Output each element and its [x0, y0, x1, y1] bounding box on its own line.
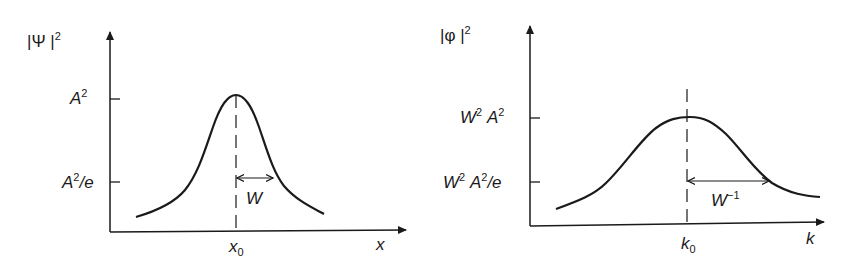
left-x-axis [110, 230, 406, 232]
left-width-label: W [246, 190, 262, 207]
diagram-canvas [0, 0, 844, 274]
left-e-tick-label: A2/e [62, 172, 94, 191]
right-x-axis [530, 222, 824, 226]
right-panel [530, 26, 824, 226]
left-y-axis-label: |Ψ |2 [27, 31, 61, 50]
right-x-axis-label: k [806, 230, 815, 247]
right-peak-tick-label: W2 A2 [460, 107, 504, 126]
left-x-axis-label: x [376, 236, 385, 253]
left-peak-tick-label: A2 [70, 88, 87, 107]
right-e-tick-label: W2 A2/e [443, 172, 502, 191]
right-width-label: W−1 [711, 190, 740, 209]
left-center-label: x0 [229, 238, 244, 258]
right-y-axis-label: |φ |2 [440, 25, 471, 44]
right-center-label: k0 [681, 235, 696, 255]
right-gaussian-curve [556, 117, 820, 209]
left-gaussian-curve [136, 95, 324, 217]
